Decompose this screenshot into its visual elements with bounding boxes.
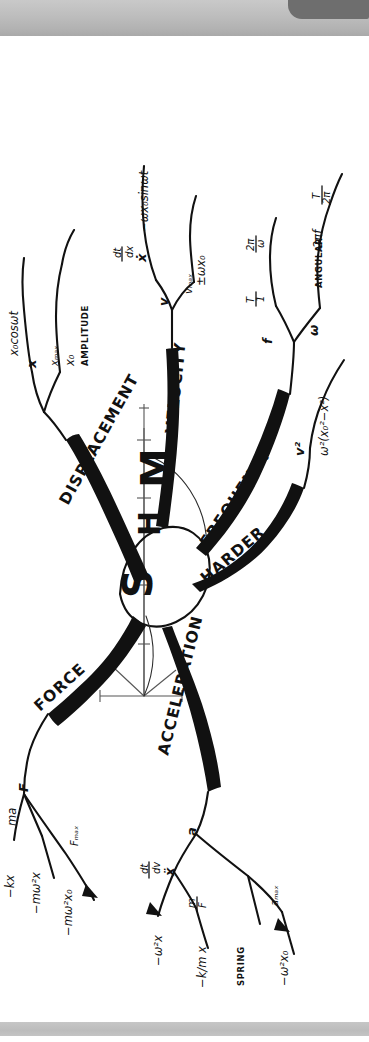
- twopi-denominator: 2π: [245, 238, 256, 251]
- symbol-velocity: v: [156, 297, 171, 306]
- fraction-dv-dt: dv dt: [139, 861, 162, 878]
- acceleration-formula-1: −ω²x: [151, 935, 165, 966]
- dv-numerator: dv: [151, 861, 162, 874]
- fraction-twopi-over-T: 2π T: [311, 186, 332, 204]
- branch-harder: HARDER v² ω²(x₀²−x²): [192, 360, 344, 592]
- frequency-angular-value: 2πf: [311, 228, 325, 248]
- scanner-bar-top: [0, 0, 369, 36]
- acceleration-xddot: ẍ: [162, 867, 177, 877]
- scanner-bar-bottom: [0, 1022, 369, 1036]
- T-denominator: T: [245, 296, 256, 303]
- T-denominator-2: T: [311, 192, 322, 199]
- velocity-formula-1: −ωx₀sinωt: [137, 170, 151, 232]
- force-ma: ma: [5, 808, 19, 826]
- symbol-acceleration: a: [184, 827, 199, 836]
- branch-acceleration: ACCELERATION a ẍ dv dt −ω²x F m −k/m x S…: [139, 614, 294, 988]
- branch-displacement: DISPLACEMENT x x₀cosωt xₘₐₓ x₀ AMPLITUDE: [7, 230, 150, 581]
- symbol-frequency-omega: ω: [306, 325, 321, 336]
- dx-numerator: dx: [124, 246, 135, 258]
- displacement-amplitude-note: AMPLITUDE: [80, 305, 90, 366]
- fraction-one-over-T: 1 T: [245, 292, 266, 306]
- acceleration-spring-note: SPRING: [236, 946, 246, 986]
- velocity-formula-2: ±ωx₀: [194, 255, 208, 286]
- page-root: S H M DISPLACEMENT x x₀cosωt xₘₐₓ x₀ AMP…: [0, 0, 369, 1042]
- label-velocity: VELOCITY: [162, 341, 190, 434]
- velocity-vmax: vₘₐₓ: [183, 273, 194, 294]
- fraction-dx-dt: dx dt: [112, 246, 135, 261]
- branch-force: FORCE F ma −kx −mω²x Fₘₐₓ −mω²x₀: [3, 616, 146, 936]
- F-numerator: F: [197, 902, 208, 908]
- mindmap-canvas: S H M DISPLACEMENT x x₀cosωt xₘₐₓ x₀ AMP…: [0, 36, 369, 1022]
- fraction-omega-over-2pi: ω 2π: [245, 236, 266, 252]
- scanner-tab: [288, 0, 369, 19]
- mindmap-svg: S H M DISPLACEMENT x x₀cosωt xₘₐₓ x₀ AMP…: [0, 36, 369, 1022]
- force-formula-2: −mω²x: [29, 872, 43, 914]
- velocity-xdot: ẋ: [134, 253, 149, 263]
- harder-formula: ω²(x₀²−x²): [317, 396, 331, 456]
- symbol-displacement: x: [24, 359, 39, 369]
- displacement-formula-1: x₀cosωt: [7, 311, 21, 357]
- acceleration-formula-3: −ω²x₀: [277, 950, 291, 986]
- branch-frequency: FREQUENCY f 1 T ω 2π ω ANGULAR 2πf 2π T: [196, 174, 342, 556]
- dt-denominator-2: dt: [139, 863, 150, 874]
- dt-denominator: dt: [112, 247, 123, 258]
- displacement-xmax: xₘₐₓ: [49, 345, 60, 367]
- acceleration-formula-2: −k/m x: [195, 946, 209, 988]
- force-formula-3: −mω²x₀: [61, 889, 75, 936]
- force-formula-1: −kx: [3, 875, 17, 898]
- fraction-F-over-m: F m: [186, 897, 208, 911]
- symbol-frequency-f: f: [260, 336, 275, 344]
- symbol-harder: v²: [292, 442, 307, 456]
- force-fmax: Fₘₐₓ: [69, 825, 80, 846]
- displacement-amplitude-value: x₀: [63, 354, 77, 367]
- m-denominator: m: [186, 898, 197, 908]
- symbol-force: F: [16, 783, 31, 792]
- acceleration-amax: aₘₐₓ: [269, 885, 280, 906]
